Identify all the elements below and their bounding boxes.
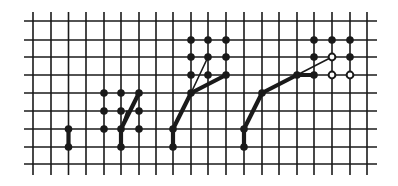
grid-dot: [222, 36, 230, 44]
grid-dot: [187, 36, 195, 44]
grid-dot: [187, 53, 195, 61]
grid-dot: [258, 89, 266, 97]
grid-dot: [222, 53, 230, 61]
grid-dot: [310, 53, 318, 61]
grid-dot: [100, 107, 108, 115]
grid-dot: [293, 71, 301, 79]
grid-dot: [117, 89, 125, 97]
grid-dot: [310, 71, 318, 79]
hollow-grid-dot: [329, 72, 336, 79]
grid-dot: [135, 107, 143, 115]
figure-1: [65, 125, 73, 151]
grid-dot: [328, 36, 336, 44]
grid-dot: [169, 125, 177, 133]
grid-dot: [65, 125, 73, 133]
grid-dot: [222, 71, 230, 79]
grid-dot: [240, 125, 248, 133]
grid-dot: [310, 36, 318, 44]
grid-dot: [100, 125, 108, 133]
grid-dot: [187, 71, 195, 79]
hollow-grid-dot: [329, 54, 336, 61]
grid-dot: [65, 143, 73, 151]
grid-dot: [135, 125, 143, 133]
grid-dot: [169, 143, 177, 151]
grid-dot: [187, 89, 195, 97]
grid-dot: [117, 107, 125, 115]
grid-dot: [204, 53, 212, 61]
grid-dot: [240, 143, 248, 151]
grid-dot: [117, 143, 125, 151]
grid-dot: [204, 71, 212, 79]
grid-dot: [204, 36, 212, 44]
diagram-canvas: [0, 0, 398, 186]
grid-dot: [346, 53, 354, 61]
thick-path: [121, 93, 139, 147]
grid-path-diagram: [0, 0, 398, 186]
grid-dot: [117, 125, 125, 133]
grid-dot: [346, 36, 354, 44]
grid-dot: [100, 89, 108, 97]
grid-lines: [24, 12, 377, 175]
hollow-grid-dot: [347, 72, 354, 79]
grid-dot: [135, 89, 143, 97]
